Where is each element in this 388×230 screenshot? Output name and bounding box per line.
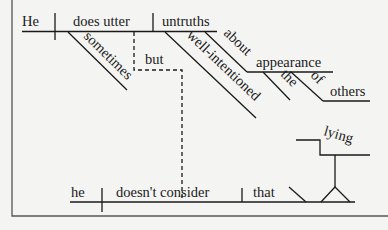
- word-verb: does utter: [73, 13, 130, 29]
- word-object: untruths: [162, 13, 210, 29]
- word-lying: lying: [322, 123, 355, 147]
- sentence-diagram: He does utter untruths sometimes well-in…: [0, 0, 388, 230]
- word-sometimes: sometimes: [81, 28, 137, 83]
- word-subject: He: [22, 13, 39, 29]
- complement-slant: [289, 187, 306, 202]
- word-about: about: [221, 25, 255, 59]
- pedestal-step-line: [296, 140, 370, 155]
- pedestal-triangle: [321, 187, 350, 202]
- word-others: others: [330, 83, 366, 99]
- word-second-verb: doesn't consider: [116, 184, 209, 200]
- word-but: but: [145, 51, 164, 67]
- word-second-subject: he: [71, 184, 85, 200]
- word-second-object: that: [253, 184, 275, 200]
